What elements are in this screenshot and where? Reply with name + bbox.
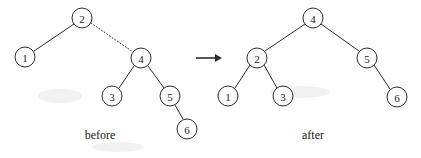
edge-4-to-2 bbox=[265, 24, 305, 51]
edge-5-to-6 bbox=[374, 65, 390, 89]
node-label: 2 bbox=[254, 53, 260, 65]
before-tree-group: 2 1 4 3 5 bbox=[15, 8, 197, 142]
caption-before: before bbox=[85, 128, 116, 142]
node-label: 5 bbox=[167, 91, 173, 103]
edge-5-to-6 bbox=[175, 105, 183, 119]
before-tree-nodes: 2 1 4 3 5 bbox=[15, 8, 197, 139]
tree-node: 3 bbox=[273, 86, 293, 106]
edge-2-to-1 bbox=[235, 65, 250, 88]
tree-node: 2 bbox=[247, 48, 267, 68]
tree-node: 4 bbox=[303, 8, 323, 28]
tree-node: 5 bbox=[160, 86, 180, 106]
figure-canvas: 2 1 4 3 5 bbox=[0, 0, 421, 158]
tree-node: 4 bbox=[131, 48, 151, 68]
caption-after: after bbox=[302, 128, 324, 142]
node-label: 3 bbox=[109, 91, 115, 103]
tree-node: 1 bbox=[15, 47, 35, 67]
binary-tree-rotation-diagram: 2 1 4 3 5 bbox=[0, 0, 421, 158]
node-label: 2 bbox=[79, 13, 85, 25]
tree-node: 2 bbox=[72, 8, 92, 28]
tree-node: 6 bbox=[177, 119, 197, 139]
tree-node: 1 bbox=[218, 86, 238, 106]
node-label: 4 bbox=[138, 53, 144, 65]
edge-4-to-3 bbox=[119, 66, 134, 88]
edge-2-to-3 bbox=[264, 65, 277, 88]
edge-2-to-1 bbox=[34, 24, 74, 51]
node-label: 6 bbox=[184, 124, 190, 136]
node-label: 3 bbox=[280, 91, 286, 103]
node-label: 5 bbox=[364, 53, 370, 65]
node-label: 1 bbox=[225, 91, 231, 103]
arrow-head bbox=[215, 54, 222, 62]
right-arrow-icon bbox=[196, 54, 222, 62]
tree-node: 3 bbox=[102, 86, 122, 106]
tree-node: 6 bbox=[387, 87, 407, 107]
tree-node: 5 bbox=[357, 48, 377, 68]
edge-4-to-5 bbox=[321, 24, 359, 51]
node-label: 6 bbox=[394, 92, 400, 104]
after-tree-group: 4 2 5 1 3 bbox=[218, 8, 407, 142]
edge-2-to-4-detached bbox=[91, 23, 133, 52]
node-label: 4 bbox=[310, 13, 316, 25]
node-label: 1 bbox=[22, 52, 28, 64]
edge-4-to-5 bbox=[148, 66, 164, 88]
